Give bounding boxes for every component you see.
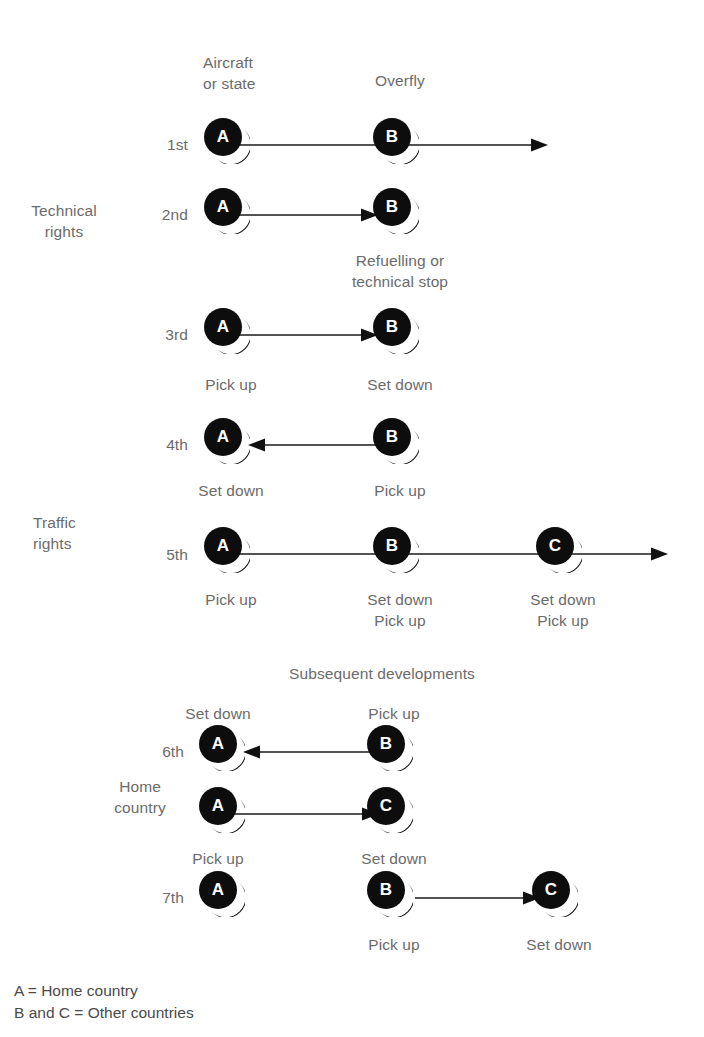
column-header-aircraft-or-state: Aircraft or state: [203, 52, 256, 94]
node-6th-b: B: [367, 725, 413, 771]
ordinal-1st: 1st: [167, 134, 188, 155]
node-5th-c: C: [536, 527, 582, 573]
ordinal-5th: 5th: [166, 544, 188, 565]
diagram-canvas: Aircraft or state Overfly Technical righ…: [0, 0, 704, 1037]
node-2nd-b: B: [373, 188, 419, 234]
edge-4th-reverse: [248, 438, 388, 452]
annotation-6th-pick-up: Pick up: [368, 703, 420, 724]
annotation-3rd-pick-up: Pick up: [205, 374, 257, 395]
edge-7th: [415, 891, 540, 905]
node-3rd-b: B: [373, 308, 419, 354]
group-label-home-country: Home country: [114, 776, 166, 818]
node-1st-b: B: [373, 118, 419, 164]
annotation-5th-set-down-pick-up-b: Set down Pick up: [367, 589, 432, 631]
node-5th-a: A: [204, 527, 250, 573]
ordinal-6th: 6th: [162, 741, 184, 762]
group-label-technical-rights: Technical rights: [31, 200, 97, 242]
node-1st-a: A: [204, 118, 250, 164]
node-4th-a: A: [204, 418, 250, 464]
edge-5th: [228, 547, 668, 561]
group-label-traffic-rights: Traffic rights: [33, 512, 76, 554]
annotation-6th-set-down: Set down: [185, 703, 250, 724]
column-header-overfly: Overfly: [375, 70, 425, 91]
node-5th-b: B: [373, 527, 419, 573]
node-2nd-a: A: [204, 188, 250, 234]
annotation-7th-set-down: Set down: [526, 934, 591, 955]
node-7th-b: B: [367, 871, 413, 917]
edge-6th-reverse: [243, 745, 383, 759]
legend-item-bc: B and C = Other countries: [14, 1002, 194, 1024]
annotation-7th-pick-up: Pick up: [368, 934, 420, 955]
ordinal-3rd: 3rd: [165, 324, 188, 345]
node-3rd-a: A: [204, 308, 250, 354]
node-6th-a-lower: A: [199, 787, 245, 833]
annotation-4th-set-down: Set down: [198, 480, 263, 501]
node-7th-a: A: [199, 871, 245, 917]
node-6th-c: C: [367, 787, 413, 833]
annotation-6th-pick-up-lower: Pick up: [192, 848, 244, 869]
ordinal-7th: 7th: [162, 887, 184, 908]
annotation-5th-pick-up: Pick up: [205, 589, 257, 610]
section-title-subsequent-developments: Subsequent developments: [289, 663, 475, 684]
edge-6th-forward: [224, 807, 379, 821]
node-4th-b: B: [373, 418, 419, 464]
annotation-refuelling-or-technical-stop: Refuelling or technical stop: [352, 250, 448, 292]
annotation-3rd-set-down: Set down: [367, 374, 432, 395]
legend-item-a: A = Home country: [14, 980, 138, 1002]
node-6th-a: A: [199, 725, 245, 771]
node-7th-c: C: [532, 871, 578, 917]
edge-2nd-technical-stop: [228, 208, 378, 222]
annotation-6th-set-down-lower: Set down: [361, 848, 426, 869]
edge-3rd: [228, 328, 378, 342]
ordinal-2nd: 2nd: [162, 204, 188, 225]
annotation-5th-set-down-pick-up-c: Set down Pick up: [530, 589, 595, 631]
ordinal-4th: 4th: [166, 434, 188, 455]
annotation-4th-pick-up: Pick up: [374, 480, 426, 501]
